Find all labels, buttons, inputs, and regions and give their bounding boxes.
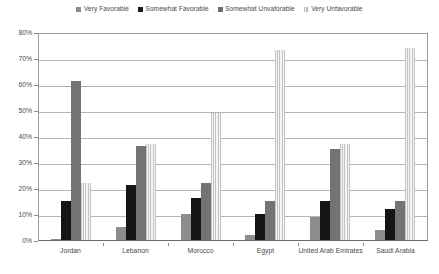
bar-somewhat-favorable: [320, 201, 330, 240]
x-axis-tick-mark: [363, 243, 364, 246]
y-axis-tick-label: 20%: [18, 186, 32, 193]
bar-group-bars: [362, 34, 427, 240]
x-axis: JordanLebanonMoroccoEgyptUnited Arab Emi…: [38, 243, 428, 255]
x-axis-tick-label: Morocco: [168, 243, 233, 255]
legend-swatch-icon-somewhat-unfavorable: [218, 7, 223, 12]
bar-somewhat-unfavorable: [136, 146, 146, 240]
bar-somewhat-unfavorable: [330, 149, 340, 240]
plot-area-wrapper: [38, 33, 428, 241]
legend-label-very-unfavorable: Very Unfavorable: [311, 6, 362, 13]
y-axis-tick-label: 70%: [18, 56, 32, 63]
bar-group-bars: [233, 34, 298, 240]
bar-very-unfavorable: [146, 144, 156, 240]
bar-very-unfavorable: [275, 50, 285, 240]
y-axis-tick-mark: [34, 241, 38, 242]
bar-somewhat-favorable: [126, 185, 136, 240]
bar-group-bars: [168, 34, 233, 240]
y-axis-tick-label: 30%: [18, 160, 32, 167]
x-axis-tick-label: Saudi Arabia: [363, 243, 428, 255]
bar-group-bars: [104, 34, 169, 240]
chart-legend: Very Favorable Somewhat Favorable Somewh…: [0, 6, 439, 13]
bar-very-unfavorable: [340, 144, 350, 240]
x-axis-tick-label: Egypt: [233, 243, 298, 255]
legend-item-very-unfavorable: Very Unfavorable: [304, 6, 363, 13]
y-axis-tick-label: 0%: [22, 238, 32, 245]
bar-somewhat-favorable: [191, 198, 201, 240]
legend-item-somewhat-unfavorable: Somewhat Unvaforable: [218, 6, 295, 13]
x-axis-tick-mark: [233, 243, 234, 246]
bar-somewhat-favorable: [385, 209, 395, 240]
bar-somewhat-unfavorable: [265, 201, 275, 240]
y-axis-tick-label: 10%: [18, 212, 32, 219]
y-axis-tick-label: 60%: [18, 82, 32, 89]
x-axis-tick-label: United Arab Emirates: [298, 243, 363, 255]
bar-group: [39, 34, 104, 240]
bar-very-unfavorable: [81, 183, 91, 240]
bar-groups: [39, 34, 427, 240]
bar-group-bars: [298, 34, 363, 240]
favorability-bar-chart: Very Favorable Somewhat Favorable Somewh…: [0, 0, 439, 274]
bar-very-favorable: [375, 230, 385, 240]
legend-swatch-icon-very-unfavorable: [304, 7, 309, 12]
x-axis-tick-mark: [168, 243, 169, 246]
y-axis-tick-label: 40%: [18, 134, 32, 141]
legend-item-somewhat-favorable: Somewhat Favorable: [138, 6, 209, 13]
y-axis-tick-label: 80%: [18, 30, 32, 37]
legend-swatch-icon-very-favorable: [76, 7, 81, 12]
legend-swatch-icon-somewhat-favorable: [138, 7, 143, 12]
bar-group: [168, 34, 233, 240]
bar-very-favorable: [245, 235, 255, 240]
bar-very-favorable: [116, 227, 126, 240]
bar-somewhat-favorable: [61, 201, 71, 240]
bar-very-unfavorable: [211, 113, 221, 240]
bar-somewhat-unfavorable: [71, 81, 81, 240]
x-axis-tick-label: Lebanon: [103, 243, 168, 255]
bar-somewhat-favorable: [255, 214, 265, 240]
x-axis-tick-mark: [103, 243, 104, 246]
bar-very-unfavorable: [405, 48, 415, 240]
x-axis-tick-label: Jordan: [38, 243, 103, 255]
bar-somewhat-unfavorable: [395, 201, 405, 240]
legend-label-somewhat-unfavorable: Somewhat Unvaforable: [225, 6, 295, 13]
x-axis-tick-mark: [298, 243, 299, 246]
bar-group: [362, 34, 427, 240]
plot-area: [38, 33, 428, 241]
legend-label-somewhat-favorable: Somewhat Favorable: [145, 6, 208, 13]
bar-very-favorable: [181, 214, 191, 240]
legend-item-very-favorable: Very Favorable: [76, 6, 129, 13]
y-axis-tick-label: 50%: [18, 108, 32, 115]
bar-group: [104, 34, 169, 240]
bar-somewhat-unfavorable: [201, 183, 211, 240]
y-axis: 0%10%20%30%40%50%60%70%80%: [0, 33, 38, 241]
bar-group: [298, 34, 363, 240]
bar-group: [233, 34, 298, 240]
legend-label-very-favorable: Very Favorable: [84, 6, 129, 13]
bar-group-bars: [39, 34, 104, 240]
bar-very-favorable: [310, 217, 320, 240]
bar-very-favorable: [51, 239, 61, 240]
